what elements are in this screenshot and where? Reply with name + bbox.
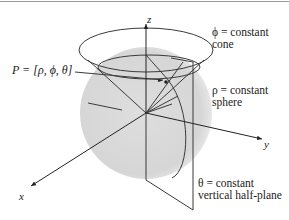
cone-annotation: ϕ = constant cone (212, 26, 269, 50)
cone-annotation-line2: cone (212, 38, 269, 50)
half-plane-annotation-line2: vertical half-plane (198, 189, 282, 201)
sphere-annotation-line1: ρ = constant (212, 84, 268, 96)
sphere-annotation: ρ = constant sphere (212, 84, 268, 108)
point-p (164, 80, 168, 84)
z-axis-label: z (147, 13, 151, 25)
half-plane-annotation-line1: θ = constant (198, 177, 282, 189)
x-axis-label: x (19, 190, 24, 202)
y-axis-label: y (264, 138, 269, 150)
half-plane-annotation: θ = constant vertical half-plane (198, 177, 282, 201)
point-p-label: P = [ρ, ϕ, θ] (12, 64, 72, 76)
sphere-annotation-line2: sphere (212, 96, 268, 108)
cone-annotation-line1: ϕ = constant (212, 26, 269, 38)
